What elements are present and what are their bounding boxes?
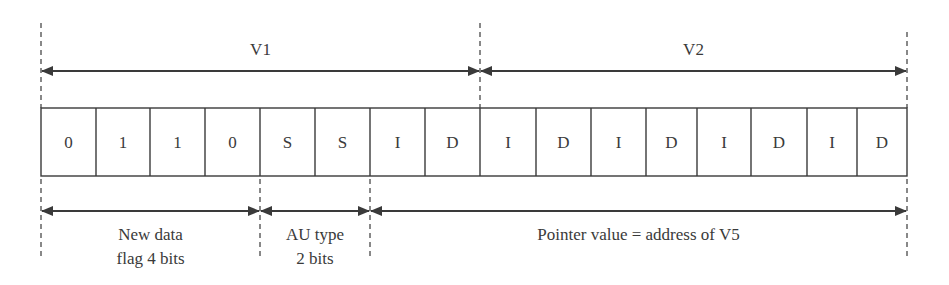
- bit-cell: I: [395, 133, 401, 152]
- bit-cells-row: 0110SSIDIDIDIDID: [41, 108, 907, 176]
- bit-cell: I: [505, 133, 511, 152]
- bit-cell: S: [283, 133, 292, 152]
- field-label-line1: AU type: [286, 225, 344, 244]
- field-label-line1: Pointer value = address of V5: [537, 225, 739, 244]
- bit-cell: S: [338, 133, 347, 152]
- field-label-line2: 2 bits: [296, 249, 333, 268]
- top-span-arrows: V1V2: [42, 40, 906, 71]
- field-label-line1: New data: [118, 225, 183, 244]
- bit-cell: 0: [228, 133, 237, 152]
- bit-cell: 1: [119, 133, 128, 152]
- bit-cell: D: [557, 133, 569, 152]
- bit-cell: 1: [173, 133, 182, 152]
- span-label-v1: V1: [250, 40, 271, 59]
- bit-cell: D: [665, 133, 677, 152]
- bit-cell: D: [876, 133, 888, 152]
- bottom-dashed-guides: [41, 179, 907, 257]
- pointer-byte-diagram: V1V2 0110SSIDIDIDIDID New dataflag 4 bit…: [0, 0, 949, 285]
- top-dashed-guides: [41, 23, 907, 108]
- bit-cell: D: [446, 133, 458, 152]
- bit-cell: I: [721, 133, 727, 152]
- bit-cell: 0: [64, 133, 73, 152]
- bit-cell: I: [616, 133, 622, 152]
- field-label-line2: flag 4 bits: [117, 249, 185, 268]
- bit-cell: D: [773, 133, 785, 152]
- bottom-span-arrows: New dataflag 4 bitsAU type2 bitsPointer …: [42, 211, 906, 268]
- span-label-v2: V2: [683, 40, 704, 59]
- bit-cell: I: [829, 133, 835, 152]
